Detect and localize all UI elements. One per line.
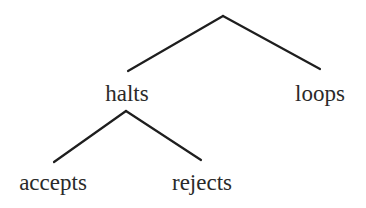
tree-diagram: halts loops accepts rejects: [0, 0, 366, 208]
node-accepts: accepts: [19, 170, 87, 195]
edge-halts-to-rejects: [126, 111, 201, 160]
node-rejects: rejects: [172, 170, 232, 195]
edge-halts-to-accepts: [54, 111, 126, 162]
edge-root-to-loops: [223, 16, 320, 69]
edge-root-to-halts: [128, 16, 223, 71]
node-halts: halts: [105, 81, 148, 106]
node-loops: loops: [295, 81, 345, 106]
